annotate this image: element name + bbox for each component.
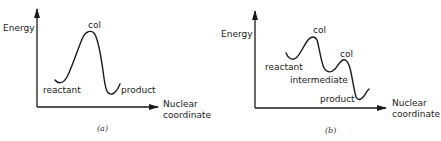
- x-axis-label-line2: coordinate: [392, 109, 440, 119]
- y-axis-label: Energy: [3, 23, 35, 33]
- col-label: col: [88, 20, 101, 30]
- col-label-2: col: [340, 49, 353, 59]
- panel-caption-a: (a): [97, 124, 108, 133]
- reaction-energy-diagrams: Energy col reactant product Nuclear coor…: [0, 0, 441, 141]
- x-axis-label-line1: Nuclear: [163, 99, 198, 109]
- panel-b: Energy col col reactant intermediate pro…: [221, 11, 440, 135]
- intermediate-label: intermediate: [290, 75, 348, 85]
- x-axis-label-line1: Nuclear: [392, 98, 427, 108]
- reactant-label: reactant: [43, 85, 81, 95]
- col-label-1: col: [313, 25, 326, 35]
- x-axis-label-line2: coordinate: [163, 110, 211, 120]
- product-label: product: [320, 94, 355, 104]
- panel-caption-b: (b): [325, 126, 336, 135]
- y-axis-label: Energy: [221, 29, 253, 39]
- reactant-label: reactant: [265, 62, 303, 72]
- product-label: product: [121, 85, 156, 95]
- panel-a: Energy col reactant product Nuclear coor…: [3, 9, 211, 133]
